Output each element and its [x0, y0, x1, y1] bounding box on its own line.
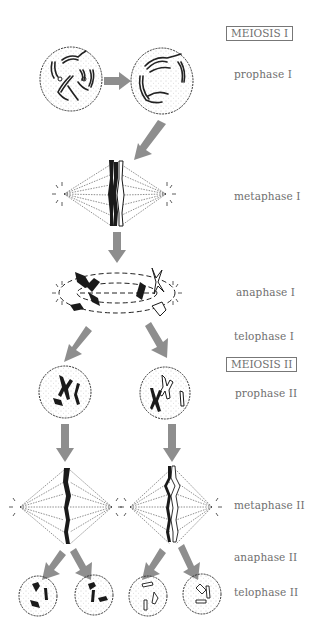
stage-label-metaphase1: metaphase I — [234, 190, 301, 202]
metaphase1-spindle — [52, 160, 176, 226]
arrow-to-telophase2-2 — [70, 548, 92, 580]
arrow-to-metaphase2-right — [163, 424, 181, 462]
prophase1-cell-early — [40, 47, 102, 111]
section-label-meiosis1: MEIOSIS I — [226, 26, 293, 41]
prophase2-cell-right — [140, 367, 190, 419]
metaphase2-spindle-right — [120, 466, 222, 544]
section-label-meiosis2: MEIOSIS II — [226, 357, 297, 372]
stage-label-metaphase2: metaphase II — [234, 499, 305, 511]
prophase1-cell-late — [131, 48, 193, 114]
prophase2-cell-left — [39, 366, 91, 418]
telophase2-cell-1 — [19, 576, 57, 616]
arrow-to-metaphase1 — [134, 120, 166, 160]
arrow-to-telophase2-3 — [142, 548, 166, 580]
stage-label-telophase2: telophase II — [234, 586, 298, 598]
arrow-to-anaphase1 — [108, 232, 126, 263]
arrow-to-prophase2-right — [145, 322, 168, 358]
stage-label-prophase2: prophase II — [235, 387, 297, 399]
arrow-right-prophase1 — [104, 72, 131, 90]
stage-label-telophase1: telophase I — [234, 330, 294, 342]
arrow-to-prophase2-left — [64, 326, 92, 362]
telophase2-cell-4 — [183, 574, 221, 614]
telophase2-cell-3 — [129, 576, 167, 616]
metaphase2-spindle-left — [9, 468, 122, 544]
telophase2-cell-2 — [75, 575, 113, 615]
stage-label-prophase1: prophase I — [234, 68, 292, 80]
stage-label-anaphase2: anaphase II — [234, 551, 297, 563]
meiosis-diagram — [0, 0, 320, 641]
stage-label-anaphase1: anaphase I — [236, 286, 295, 298]
arrow-to-metaphase2-left — [56, 424, 74, 462]
anaphase1-spindle — [52, 268, 182, 316]
arrow-to-telophase2-1 — [42, 550, 66, 580]
